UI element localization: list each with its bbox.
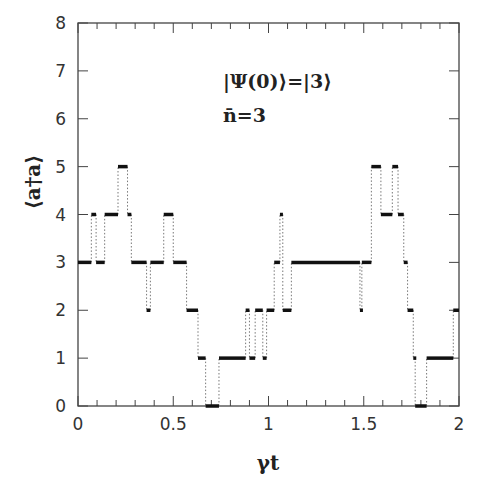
annotation-initial-state: |Ψ(0)⟩=|3⟩	[223, 70, 332, 93]
y-tick-label: 1	[55, 348, 66, 368]
y-tick-label: 0	[55, 396, 66, 416]
x-tick-label: 1.5	[350, 414, 377, 434]
y-tick-label: 7	[55, 61, 66, 81]
chart: 00.511.52012345678 γt ⟨a†a⟩ |Ψ(0)⟩=|3⟩ n…	[0, 0, 482, 478]
y-tick-label: 4	[55, 205, 66, 225]
y-tick-label: 3	[55, 252, 66, 272]
x-tick-label: 0.5	[160, 414, 187, 434]
x-axis-label: γt	[257, 451, 280, 475]
y-axis-label: ⟨a†a⟩	[21, 155, 45, 210]
y-tick-label: 8	[55, 13, 66, 33]
x-tick-label: 0	[73, 414, 84, 434]
data-series	[78, 167, 459, 406]
y-tick-label: 6	[55, 109, 66, 129]
x-tick-label: 2	[454, 414, 465, 434]
annotation-mean-photon-number: n̄=3	[223, 104, 266, 126]
y-tick-label: 2	[55, 300, 66, 320]
y-tick-label: 5	[55, 157, 66, 177]
x-tick-label: 1	[263, 414, 274, 434]
